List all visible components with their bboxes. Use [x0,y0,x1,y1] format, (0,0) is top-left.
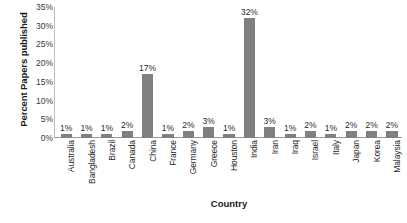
bar[interactable]: 17% [142,74,153,138]
x-axis-tick-cell: Korea [361,139,381,194]
bar-value-label: 3% [203,116,215,126]
bar[interactable]: 2% [346,131,357,138]
bar-value-label: 2% [345,120,357,130]
x-axis-tick-cell: Japan [341,139,361,194]
x-axis-tick: Greece [209,140,219,167]
bar[interactable]: 1% [325,134,336,138]
bar-value-label: 1% [162,123,174,133]
y-axis-tick: 10% [26,96,53,106]
bar-series: 1%1%1%2%17%1%2%3%1%32%3%1%2%1%2%2%2% [56,7,402,138]
bar-cell: 1% [97,7,117,138]
x-axis-tick-cell: Canada [117,139,137,194]
x-axis-tick: Bangladesh [87,140,97,184]
y-axis-tick: 30% [26,21,53,31]
bar-value-label: 3% [264,116,276,126]
plot-area: 1%1%1%2%17%1%2%3%1%32%3%1%2%1%2%2%2% [56,7,402,138]
x-axis-tick: Brazil [107,140,117,161]
bar-cell: 1% [158,7,178,138]
bar-value-label: 1% [284,123,296,133]
x-axis-tick: France [168,140,178,166]
y-axis-tick: 5% [26,114,53,124]
x-axis-tick: Italy [331,140,341,155]
x-axis-tick-cell: France [158,139,178,194]
x-axis-tick-cell: Brazil [97,139,117,194]
x-axis-tick-cell: Bangladesh [76,139,96,194]
bar-value-label: 32% [241,7,258,17]
x-axis-tick-cell: Houston [219,139,239,194]
bar[interactable]: 2% [386,131,397,138]
bar-value-label: 2% [182,120,194,130]
y-axis-tick: 35% [26,2,53,12]
bar[interactable]: 1% [101,134,112,138]
bar[interactable]: 2% [305,131,316,138]
x-axis-tick-cell: Iraq [280,139,300,194]
x-axis-tick: Israel [310,140,320,160]
bar-value-label: 1% [325,123,337,133]
bar-value-label: 2% [386,120,398,130]
x-axis-tick-cell: Malaysia [382,139,402,194]
bar[interactable]: 2% [183,131,194,138]
bar-cell: 17% [137,7,157,138]
bar-cell: 2% [117,7,137,138]
x-axis-tick-cell: Germany [178,139,198,194]
x-axis-tick-cell: India [239,139,259,194]
bar[interactable]: 32% [244,18,255,138]
x-axis-title: Country [56,198,402,209]
bar-cell: 32% [239,7,259,138]
x-axis-tick: Australia [66,140,76,172]
x-axis-tick: Houston [229,140,239,171]
bar[interactable]: 2% [122,131,133,138]
bar-value-label: 1% [80,123,92,133]
bar-cell: 2% [300,7,320,138]
bar-value-label: 17% [139,63,156,73]
bar-cell: 2% [178,7,198,138]
x-axis-tick-cell: Iran [260,139,280,194]
x-axis-tick-cell: Greece [199,139,219,194]
bar[interactable]: 1% [162,134,173,138]
x-axis-tick: Canada [127,140,137,169]
bar-value-label: 1% [223,123,235,133]
bar[interactable]: 1% [61,134,72,138]
x-axis-tick-labels: AustraliaBangladeshBrazilCanadaChinaFran… [56,139,402,194]
bar-cell: 2% [382,7,402,138]
x-axis-tick: China [148,140,158,162]
bar-chart: Percent Papers published 0%5%10%15%20%25… [0,0,407,223]
x-axis-tick-cell: China [137,139,157,194]
bar-cell: 3% [199,7,219,138]
x-axis-tick: Korea [372,140,382,162]
x-axis-tick: Malaysia [392,140,402,173]
x-axis-tick: Iran [270,140,280,154]
bar-value-label: 2% [304,120,316,130]
y-axis-tick: 15% [26,77,53,87]
y-axis-line [54,7,55,138]
bar-cell: 1% [219,7,239,138]
x-axis-tick-cell: Italy [321,139,341,194]
bar[interactable]: 3% [203,127,214,138]
y-axis-tick: 20% [26,58,53,68]
bar-value-label: 1% [60,123,72,133]
x-axis-tick: Germany [188,140,198,174]
bar-cell: 2% [341,7,361,138]
x-axis-tick-cell: Israel [300,139,320,194]
bar[interactable]: 1% [285,134,296,138]
bar-cell: 1% [56,7,76,138]
bar[interactable]: 1% [223,134,234,138]
bar-cell: 2% [361,7,381,138]
y-axis-tick-labels: 0%5%10%15%20%25%30%35% [26,7,53,138]
y-axis-tick: 25% [26,39,53,49]
bar-value-label: 1% [101,123,113,133]
bar-cell: 1% [76,7,96,138]
x-axis-tick: Iraq [290,140,300,154]
bar-value-label: 2% [121,120,133,130]
bar-value-label: 2% [365,120,377,130]
x-axis-tick: Japan [351,140,361,163]
bar[interactable]: 2% [366,131,377,138]
y-axis-tick: 0% [26,133,53,143]
bar[interactable]: 3% [264,127,275,138]
bar-cell: 1% [321,7,341,138]
x-axis-tick-cell: Australia [56,139,76,194]
x-axis-tick: India [249,140,259,158]
bar-cell: 3% [260,7,280,138]
bar[interactable]: 1% [81,134,92,138]
bar-cell: 1% [280,7,300,138]
